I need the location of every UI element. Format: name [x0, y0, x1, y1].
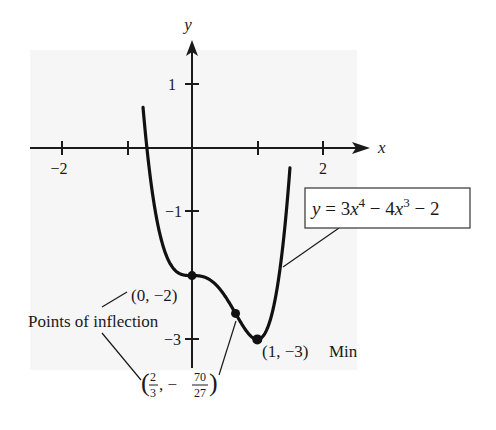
- y-tick-label-1: 1: [168, 76, 176, 93]
- svg-text:, −: , −: [159, 375, 177, 394]
- svg-text:27: 27: [194, 386, 206, 400]
- svg-text:3: 3: [150, 386, 156, 400]
- minimum-point: [252, 334, 262, 344]
- x-tick-label-neg2: −2: [50, 160, 67, 177]
- x-tick-label-2: 2: [319, 160, 327, 177]
- equation-text: y = 3x4 − 4x3 − 2: [310, 195, 439, 219]
- label-fraction-point: ( 2 3 , − 70 27 ): [141, 368, 218, 400]
- y-axis-label: y: [182, 15, 192, 34]
- svg-text:(1, −3): (1, −3): [262, 342, 308, 361]
- svg-text:(: (: [141, 368, 150, 397]
- y-tick-label-neg1: −1: [165, 203, 182, 220]
- svg-text:): ): [209, 368, 218, 397]
- label-origin-point: (0, −2): [131, 286, 177, 305]
- y-tick-label-neg3: −3: [164, 331, 181, 348]
- svg-text:Min: Min: [329, 342, 358, 361]
- inflection-point-two-thirds: [231, 309, 240, 318]
- x-axis-label: x: [377, 138, 386, 157]
- svg-text:2: 2: [150, 370, 156, 384]
- svg-text:70: 70: [194, 370, 206, 384]
- inflection-point-origin: [188, 271, 197, 280]
- label-points-of-inflection: Points of inflection: [28, 312, 159, 331]
- chart-figure: −2 2 x 1 −1 −3 y (0, −2) Points of infle…: [0, 0, 496, 430]
